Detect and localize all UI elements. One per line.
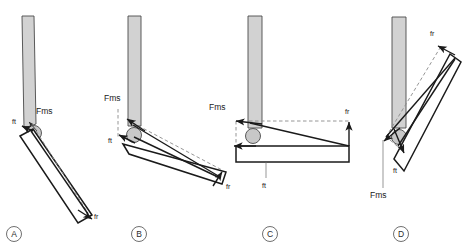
fr-label-b: fr [226, 183, 231, 190]
panel-letter-d: D [398, 229, 404, 239]
panel-letter-a: A [11, 229, 17, 239]
fms-label-b: Fms [104, 93, 121, 103]
fr-arrow-d [438, 46, 455, 55]
tibia-bone-a [20, 129, 92, 223]
fr-label-c: fr [345, 108, 350, 115]
fms-label-a: Fms [36, 106, 53, 116]
fr-label-d: fr [430, 30, 435, 37]
ft-label-b: ft [108, 137, 112, 144]
femur-bone-a [22, 16, 36, 128]
femur-bone-b [128, 16, 141, 126]
ft-label-d: ft [393, 167, 397, 174]
biomechanics-figure: Fms ft fr A Fms ft fr B [0, 0, 472, 247]
ft-label-c: ft [262, 182, 266, 189]
panel-letter-b: B [136, 229, 142, 239]
panel-d: fr ft Fms D [370, 17, 461, 242]
femur-bone-c [248, 16, 262, 128]
ft-label-a: ft [12, 118, 16, 125]
panel-letter-c: C [267, 229, 273, 239]
panel-a: Fms ft fr A [7, 16, 99, 242]
tibial-force-line-a [31, 131, 88, 214]
resultant-dashed-a [33, 126, 88, 213]
femur-bone-d [392, 17, 406, 128]
fms-label-c: Fms [209, 102, 226, 112]
fr-label-a: fr [94, 213, 99, 220]
patella-c [246, 129, 261, 144]
tibial-force-line-c [250, 123, 349, 146]
panel-b: Fms ft fr B [104, 16, 231, 242]
tibial-force-line-d2 [398, 59, 455, 146]
fms-label-d: Fms [370, 190, 387, 200]
panel-c: Fms ft fr C [209, 16, 350, 242]
tibia-bone-c [236, 146, 349, 162]
